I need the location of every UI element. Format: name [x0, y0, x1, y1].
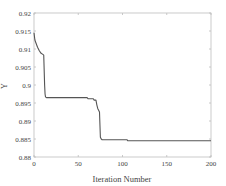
x-tick-label: 100 — [117, 160, 128, 168]
axes-box — [34, 13, 211, 157]
y-tick-label: 0.895 — [15, 100, 31, 108]
y-tick-label: 0.92 — [19, 10, 32, 18]
x-tick-label: 0 — [32, 160, 36, 168]
y-tick-label: 0.89 — [19, 118, 32, 126]
series-line — [34, 33, 211, 141]
x-tick-label: 150 — [162, 160, 173, 168]
y-tick-label: 0.91 — [19, 46, 32, 54]
y-axis-label: Y — [0, 83, 9, 89]
y-tick-label: 0.9 — [22, 82, 31, 90]
series-layer — [34, 33, 211, 141]
y-tick-label: 0.885 — [15, 136, 31, 144]
y-tick-label: 0.915 — [15, 28, 31, 36]
x-tick-label: 50 — [75, 160, 83, 168]
x-axis-label: Iteration Number — [93, 174, 152, 184]
y-tick-label: 0.905 — [15, 64, 31, 72]
chart-figure: 050100150200 0.880.8850.890.8950.90.9050… — [0, 0, 226, 186]
x-axis-ticks: 050100150200 — [32, 13, 217, 168]
x-tick-label: 200 — [206, 160, 217, 168]
plot-frame — [34, 13, 211, 157]
y-tick-label: 0.88 — [19, 154, 32, 162]
line-chart: 050100150200 0.880.8850.890.8950.90.9050… — [0, 0, 226, 186]
